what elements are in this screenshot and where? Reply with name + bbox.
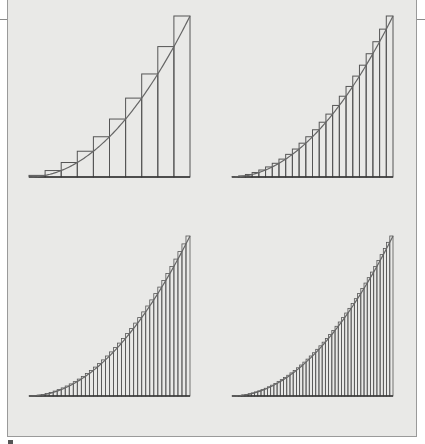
riemann-rectangle [293,370,296,396]
riemann-rectangle [319,122,326,177]
riemann-rectangle [359,65,366,177]
riemann-rectangle [325,338,328,396]
riemann-rectangle [348,308,351,396]
riemann-rectangle [114,348,118,396]
riemann-rectangle [326,114,333,177]
riemann-rectangle [93,137,109,177]
riemann-rectangle [290,373,293,396]
riemann-rectangle [118,343,122,396]
riemann-rectangle [170,266,174,396]
riemann-rectangle [351,304,354,396]
riemann-rectangle [390,236,393,396]
caption-cutoff [8,440,13,444]
riemann-rectangle [105,356,109,396]
riemann-rectangle [110,352,114,396]
riemann-rectangle [93,367,97,396]
riemann-rectangle [174,16,190,177]
riemann-rectangle [162,280,166,396]
riemann-rectangle [329,335,332,397]
riemann-rectangle [306,359,309,396]
riemann-rectangle [387,242,390,396]
riemann-rectangle [377,261,380,396]
riemann-rectangle [142,74,158,177]
riemann-rectangle [341,318,344,396]
riemann-rectangle [345,313,348,396]
riemann-rectangle [174,259,178,396]
riemann-rectangle [89,370,93,396]
riemann-rectangle [150,300,154,396]
riemann-rectangle [97,364,101,396]
riemann-rectangle [300,365,303,396]
riemann-rectangle [158,47,174,177]
riemann-rectangle [354,299,357,396]
riemann-rectangle [178,252,182,396]
riemann-rectangle [370,272,373,396]
riemann-rectangle [158,287,162,396]
riemann-rectangle [296,368,299,396]
riemann-rectangle [280,380,283,396]
riemann-rectangle [287,375,290,396]
riemann-rectangle [313,353,316,396]
riemann-rectangle [374,266,377,396]
riemann-rectangle [284,378,287,397]
riemann-rectangle [134,323,138,396]
riemann-sum-figure [0,0,425,444]
riemann-rectangle [367,278,370,396]
riemann-rectangle [101,360,105,396]
riemann-rectangle [313,130,320,177]
riemann-rectangle [353,76,360,177]
riemann-rectangle [319,346,322,396]
riemann-rectangle [322,342,325,396]
riemann-plot-10 [29,16,190,177]
riemann-rectangle [364,283,367,396]
riemann-rectangle [309,356,312,396]
riemann-rectangle [122,338,126,396]
riemann-rectangle [338,322,341,396]
riemann-rectangle [380,29,387,177]
riemann-rectangle [126,334,130,397]
riemann-rectangle [186,236,190,396]
riemann-rectangle [77,151,93,177]
riemann-rectangle [333,105,340,177]
riemann-rectangle [154,294,158,396]
riemann-rectangle [303,362,306,396]
riemann-rectangle [332,330,335,396]
riemann-rectangle [373,42,380,177]
riemann-plot-24 [232,16,393,177]
riemann-rectangle [85,374,89,397]
riemann-rectangle [335,326,338,396]
riemann-rectangle [166,274,170,397]
riemann-rectangle [386,16,393,177]
riemann-rectangle [316,349,319,396]
riemann-rectangle [366,54,373,177]
riemann-rectangle [146,306,150,396]
riemann-rectangle [130,328,134,396]
riemann-rectangle [182,244,186,396]
riemann-rectangle [361,288,364,396]
riemann-rectangle [346,86,353,177]
riemann-plot-40 [29,236,190,396]
riemann-plot-50 [232,236,393,396]
riemann-rectangle [358,294,361,396]
riemann-rectangle [142,312,146,396]
riemann-rectangle [380,255,383,396]
riemann-rectangle [138,318,142,396]
riemann-rectangle [339,96,346,177]
riemann-rectangle [383,249,386,396]
